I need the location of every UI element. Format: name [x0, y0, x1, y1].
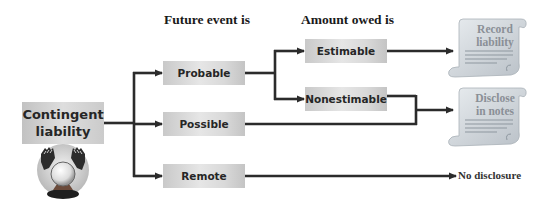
node-possible: Possible [163, 112, 245, 136]
disclose-in-notes-label: Disclose in notes [460, 92, 530, 118]
node-estimable: Estimable [305, 39, 387, 63]
root-label-line1: Contingent [22, 106, 103, 123]
probable-label: Probable [178, 67, 231, 79]
node-remote: Remote [163, 164, 245, 188]
record-liability-label: Record liability [460, 23, 530, 49]
possible-label: Possible [179, 118, 228, 130]
no-disclosure-label: No disclosure [458, 169, 521, 181]
disclose-line1: Disclose [460, 92, 530, 105]
node-nonestimable: Nonestimable [305, 87, 387, 111]
header-amount-owed: Amount owed is [301, 12, 394, 28]
estimable-label: Estimable [317, 45, 375, 57]
disclose-line2: in notes [460, 105, 530, 118]
node-contingent-liability: Contingent liability [22, 102, 104, 144]
record-line1: Record [460, 23, 530, 36]
nonestimable-label: Nonestimable [305, 93, 387, 105]
crystal-ball-icon [33, 144, 93, 200]
node-probable: Probable [163, 61, 245, 85]
root-label-line2: liability [35, 123, 90, 140]
remote-label: Remote [181, 170, 227, 182]
record-line2: liability [460, 36, 530, 49]
header-future-event: Future event is [164, 12, 250, 28]
